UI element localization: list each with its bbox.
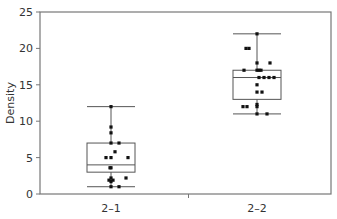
data-point [260,90,263,93]
data-point [268,61,271,64]
data-point [255,32,258,35]
data-point [242,69,245,72]
data-point [241,105,244,108]
y-tick-label: 25 [19,6,33,19]
plot-frame [40,12,331,194]
data-point [265,112,268,115]
box-1 [87,105,135,188]
data-point [126,156,129,159]
data-point [257,76,260,79]
x-axis: 2–12–2 [101,194,267,215]
data-point [259,69,262,72]
y-axis-title: Density [4,82,17,124]
y-tick-label: 5 [26,152,33,165]
data-point [245,105,248,108]
data-point [104,156,107,159]
data-point [247,47,250,50]
data-point [124,176,127,179]
data-point [109,156,112,159]
box-2 [233,32,281,115]
data-point [262,76,265,79]
data-point [109,141,112,144]
box-plot-chart: 0510152025 2–12–2 Density [0,0,337,219]
data-point [113,150,116,153]
y-tick-label: 15 [19,79,33,92]
y-tick-label: 0 [26,188,33,201]
data-point [117,185,120,188]
y-axis: 0510152025 [19,6,40,201]
x-tick-label: 2–2 [247,202,267,215]
data-point [109,185,112,188]
data-point [267,76,270,79]
x-tick-label: 2–1 [101,202,121,215]
data-point [255,61,258,64]
y-tick-label: 20 [19,42,33,55]
data-point [109,125,112,128]
data-point [255,90,258,93]
data-point [117,141,120,144]
data-point [244,47,247,50]
data-point [255,105,258,108]
data-point [108,166,111,169]
data-point [255,83,258,86]
data-point [255,112,258,115]
data-point [272,76,275,79]
data-point [109,105,112,108]
data-point [109,180,112,183]
data-point [109,131,112,134]
y-tick-label: 10 [19,115,33,128]
box-series [87,32,281,188]
